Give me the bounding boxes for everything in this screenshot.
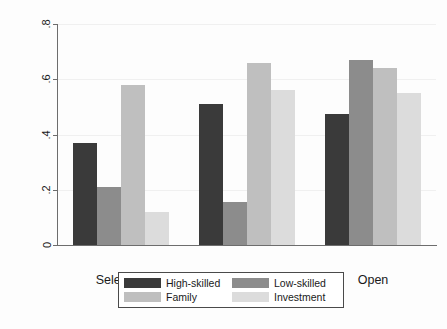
y-tick-label: .8 <box>39 19 51 28</box>
bar <box>145 212 169 245</box>
bar <box>199 104 223 245</box>
y-tick-mark <box>53 245 58 246</box>
y-tick-label: .2 <box>39 185 51 194</box>
y-tick-mark <box>53 24 58 25</box>
bar <box>397 93 421 245</box>
legend-label: Low-skilled <box>274 277 326 289</box>
bar <box>325 114 349 245</box>
bar <box>223 202 247 245</box>
y-tick-mark <box>53 79 58 80</box>
bar <box>271 90 295 245</box>
bar <box>349 60 373 245</box>
legend-swatch <box>124 292 161 302</box>
y-tick-label: .6 <box>39 75 51 84</box>
bar <box>373 68 397 245</box>
bar <box>121 85 145 245</box>
bar <box>73 143 97 245</box>
legend-swatch <box>232 278 269 288</box>
legend-swatch <box>232 292 269 302</box>
bar <box>97 187 121 245</box>
y-tick-label: 0 <box>41 242 53 248</box>
y-tick-mark <box>53 190 58 191</box>
bar <box>247 63 271 245</box>
legend-swatch <box>124 278 161 288</box>
x-axis-line <box>57 245 437 246</box>
legend-label: Investment <box>274 291 325 303</box>
legend-entry: Low-skilled <box>232 277 338 289</box>
legend-entry: Investment <box>232 291 338 303</box>
legend-label: High-skilled <box>166 277 220 289</box>
plot-area: 0.2.4.6.8 SelectiveModerateOpen <box>58 24 436 245</box>
legend-entry: High-skilled <box>124 277 230 289</box>
y-gridline <box>58 24 436 25</box>
y-tick-mark <box>53 135 58 136</box>
bar-chart-figure: Average Index Score 0.2.4.6.8 SelectiveM… <box>0 0 447 329</box>
chart-legend: High-skilledLow-skilledFamilyInvestment <box>118 272 344 308</box>
y-tick-label: .4 <box>39 130 51 139</box>
legend-entry: Family <box>124 291 230 303</box>
legend-label: Family <box>166 291 197 303</box>
